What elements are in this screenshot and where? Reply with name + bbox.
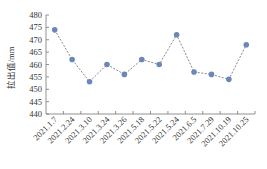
data-point [156,62,162,68]
y-axis-label: 拉出值/mm [6,46,16,89]
y-tick-label: 465 [29,47,42,57]
data-point [139,57,145,63]
y-tick-label: 455 [29,72,42,82]
data-point [209,72,215,78]
data-point [87,79,93,85]
y-tick-label: 475 [29,22,42,32]
y-tick-label: 445 [29,97,42,107]
y-axis: 440445450455460465470475480 [29,10,49,119]
x-axis: 2021.1.72021.2.242021.3.102021.3.242021.… [31,111,255,148]
y-tick-label: 460 [29,60,42,70]
data-point [174,32,180,38]
data-point [191,69,197,75]
line-chart: 440445450455460465470475480 2021.1.72021… [0,0,267,169]
series-line [55,30,247,82]
data-point [52,27,58,33]
y-tick-label: 480 [29,10,42,20]
data-series [52,27,249,85]
data-point [104,62,110,68]
y-tick-label: 450 [29,84,42,94]
data-point [243,42,249,48]
data-point [226,77,232,83]
y-tick-label: 470 [29,35,42,45]
data-point [69,57,75,63]
data-point [122,72,128,78]
y-tick-label: 440 [29,109,42,119]
